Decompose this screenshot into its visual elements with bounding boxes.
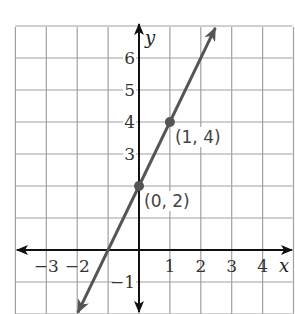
x-tick-label: −2 (65, 256, 90, 276)
x-tick-label: 2 (195, 256, 206, 276)
y-tick-label: 4 (124, 112, 135, 132)
x-tick-label: 3 (226, 256, 237, 276)
y-tick-label: −1 (110, 272, 135, 292)
point-label: (0, 2) (144, 191, 190, 211)
y-tick-label: 6 (124, 48, 135, 68)
x-axis-label: x (279, 255, 289, 276)
tick-labels: −3−212346543−1 (34, 48, 268, 292)
y-tick-label: 3 (124, 144, 135, 164)
y-axis-label: y (144, 27, 156, 48)
data-point (134, 181, 144, 191)
data-point (165, 117, 175, 127)
x-tick-label: 1 (164, 256, 175, 276)
y-tick-label: 5 (124, 80, 135, 100)
x-tick-label: 4 (257, 256, 268, 276)
point-label: (1, 4) (175, 127, 221, 147)
graph-line (139, 28, 215, 186)
coordinate-plane: −3−212346543−1 xy (0, 2)(1, 4) (0, 0, 295, 314)
x-tick-label: −3 (34, 256, 59, 276)
